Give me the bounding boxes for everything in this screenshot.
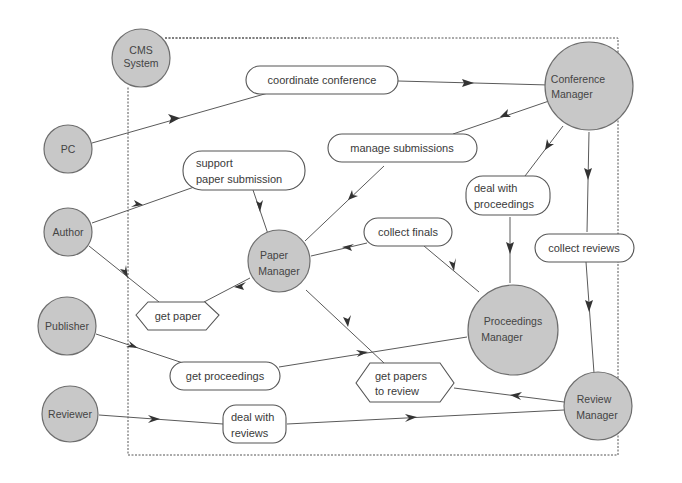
agent-label: Manager [576,409,618,421]
edge-get-papers-to-review-paper-manager [306,290,384,363]
edge-conference-manager-collect-reviews [587,132,589,232]
goal-label: proceedings [474,198,534,210]
agent-label: CMS [129,44,152,56]
arrow-icon [342,244,354,251]
agent-label: Reviewer [48,408,92,420]
agent-label: System [123,57,158,69]
goal-label: collect finals [378,226,438,238]
edge-collect-reviews-review-manager [586,262,594,373]
goal-coordinate-conference[interactable]: coordinate conference [246,66,398,94]
goal-support-paper-submission[interactable]: support paper submission [183,151,305,190]
goal-get-papers-to-review[interactable]: get papers to review [356,363,454,402]
edge-publisher-get-proceedings [96,334,183,363]
goal-deal-with-reviews[interactable]: deal with reviews [223,405,286,443]
agent-label: Publisher [45,320,89,332]
agent-label: Review [577,393,612,405]
agent-review-manager[interactable]: Review Manager [564,372,632,440]
goal-manage-submissions[interactable]: manage submissions [328,134,477,162]
goal-label: support [196,157,233,169]
goal-label: get proceedings [186,370,265,382]
agent-paper-manager[interactable]: Paper Manager [248,230,310,292]
edge-review-manager-get-papers-to-review [454,388,564,402]
goal-label: collect reviews [548,242,620,254]
agent-conference-manager[interactable]: Conference Manager [545,42,633,130]
agent-label: Manager [551,88,593,100]
goal-label: coordinate conference [268,74,377,86]
goal-label: manage submissions [350,142,454,154]
goal-get-paper[interactable]: get paper [136,302,219,330]
goal-collect-finals[interactable]: collect finals [364,218,452,246]
goal-label: deal with [474,182,517,194]
edge-collect-finals-paper-manager [311,243,367,256]
arrow-icon [256,200,263,212]
agent-proceedings-manager[interactable]: Proceedings Manager [468,285,558,375]
goal-label: deal with [231,411,274,423]
agent-author[interactable]: Author [44,208,92,256]
agent-pc[interactable]: PC [44,125,92,173]
goal-deal-with-proceedings[interactable]: deal with proceedings [466,176,550,215]
goal-label: paper submission [196,173,282,185]
agent-cms-system[interactable]: CMS System [112,29,170,87]
cms-agent-goal-diagram: CMS System PC Author Publisher Reviewer … [0,0,682,483]
edge-paper-manager-get-paper [204,278,250,302]
agent-label: PC [61,143,76,155]
agent-publisher[interactable]: Publisher [38,297,96,355]
agent-label: Proceedings [484,315,542,327]
goal-label: get papers [375,370,427,382]
edge-get-paper-author [89,246,159,302]
agent-label: Conference [551,73,605,85]
goal-collect-reviews[interactable]: collect reviews [535,234,634,262]
arrow-icon [449,258,456,271]
edge-support-paper-submission-paper-manager [253,190,268,234]
agent-label: Manager [481,331,523,343]
goal-label: to review [375,385,419,397]
agent-reviewer[interactable]: Reviewer [42,386,98,442]
goal-label: reviews [231,427,269,439]
edge-conference-manager-deal-with-proceedings [525,126,563,176]
agent-label: Manager [258,265,300,277]
edge-proceedings-manager-collect-finals [424,246,479,292]
edge-conference-manager-manage-submissions [453,101,549,134]
edge-reviewer-deal-with-reviews [99,415,223,424]
agent-label: Author [53,226,84,238]
agent-label: Paper [260,249,289,261]
goal-label: get paper [155,310,202,322]
goal-get-proceedings[interactable]: get proceedings [170,362,280,390]
edge-deal-with-reviews-review-manager [287,410,564,424]
edge-author-support-paper-submission [92,186,197,223]
arrow-icon [500,109,511,117]
arrow-icon [545,139,554,150]
